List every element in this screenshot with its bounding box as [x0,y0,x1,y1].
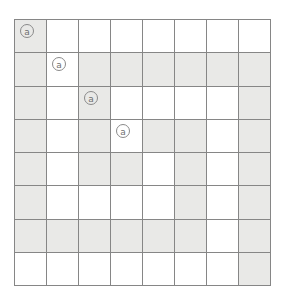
grid-row: a [15,53,271,86]
grid-row: a [15,20,271,53]
grid-cell-r5-c8[interactable] [239,153,271,186]
grid-cell-r8-c2[interactable] [47,252,79,285]
grid-cell-r5-c5[interactable] [143,153,175,186]
grid-cell-r4-c8[interactable] [239,119,271,152]
grid-cell-r2-c7[interactable] [207,53,239,86]
grid-cell-r4-c2[interactable] [47,119,79,152]
grid-cell-r5-c7[interactable] [207,153,239,186]
grid-cell-r1-c4[interactable] [111,20,143,53]
grid-cell-r3-c6[interactable] [175,86,207,119]
grid-cell-r3-c4[interactable] [111,86,143,119]
grid-cell-r8-c3[interactable] [79,252,111,285]
grid-row: a [15,86,271,119]
grid-cell-r6-c7[interactable] [207,186,239,219]
grid-cell-r2-c6[interactable] [175,53,207,86]
grid-cell-r2-c5[interactable] [143,53,175,86]
grid-cell-r4-c7[interactable] [207,119,239,152]
grid-cell-r4-c4[interactable]: a [111,119,143,152]
grid-cell-r4-c6[interactable] [175,119,207,152]
grid-cell-r8-c6[interactable] [175,252,207,285]
grid-cell-r1-c1[interactable]: a [15,20,47,53]
grid-cell-r8-c7[interactable] [207,252,239,285]
grid-cell-r6-c2[interactable] [47,186,79,219]
grid-cell-r5-c1[interactable] [15,153,47,186]
grid-cell-r7-c4[interactable] [111,219,143,252]
at-sign-token: a [52,57,66,71]
grid-cell-r4-c5[interactable] [143,119,175,152]
grid-cell-r1-c8[interactable] [239,20,271,53]
grid-cell-r8-c4[interactable] [111,252,143,285]
grid-row [15,186,271,219]
grid-cell-r5-c4[interactable] [111,153,143,186]
grid-cell-r3-c2[interactable] [47,86,79,119]
grid-cell-r3-c7[interactable] [207,86,239,119]
grid-row [15,219,271,252]
grid-cell-r1-c6[interactable] [175,20,207,53]
grid-row: a [15,119,271,152]
grid-cell-r4-c3[interactable] [79,119,111,152]
grid-cell-r2-c4[interactable] [111,53,143,86]
grid-cell-r7-c7[interactable] [207,219,239,252]
grid-cell-r8-c8[interactable] [239,252,271,285]
grid-cell-r3-c5[interactable] [143,86,175,119]
grid-cell-r1-c2[interactable] [47,20,79,53]
grid-cell-r5-c3[interactable] [79,153,111,186]
grid-cell-r2-c2[interactable]: a [47,53,79,86]
grid-cell-r6-c6[interactable] [175,186,207,219]
grid-cell-r6-c3[interactable] [79,186,111,219]
grid-cell-r1-c5[interactable] [143,20,175,53]
grid-cell-r3-c3[interactable]: a [79,86,111,119]
grid-cell-r5-c6[interactable] [175,153,207,186]
grid-cell-r1-c3[interactable] [79,20,111,53]
grid-cell-r2-c8[interactable] [239,53,271,86]
grid-cell-r7-c6[interactable] [175,219,207,252]
grid-table: aaaa [14,19,271,286]
grid-body: aaaa [15,20,271,286]
grid-cell-r3-c1[interactable] [15,86,47,119]
grid-row [15,252,271,285]
grid-cell-r6-c8[interactable] [239,186,271,219]
grid-cell-r8-c1[interactable] [15,252,47,285]
grid-cell-r7-c8[interactable] [239,219,271,252]
grid-cell-r1-c7[interactable] [207,20,239,53]
grid-cell-r6-c1[interactable] [15,186,47,219]
grid-cell-r2-c1[interactable] [15,53,47,86]
grid-cell-r7-c3[interactable] [79,219,111,252]
grid-row [15,153,271,186]
grid-cell-r7-c5[interactable] [143,219,175,252]
grid-figure: aaaa [0,0,284,300]
at-sign-token: a [116,124,130,138]
at-sign-token: a [84,91,98,105]
grid-cell-r3-c8[interactable] [239,86,271,119]
grid-cell-r6-c4[interactable] [111,186,143,219]
grid-cell-r7-c2[interactable] [47,219,79,252]
grid-cell-r2-c3[interactable] [79,53,111,86]
grid-cell-r8-c5[interactable] [143,252,175,285]
grid-cell-r5-c2[interactable] [47,153,79,186]
at-sign-token: a [20,24,34,38]
grid-cell-r7-c1[interactable] [15,219,47,252]
grid-cell-r6-c5[interactable] [143,186,175,219]
grid-cell-r4-c1[interactable] [15,119,47,152]
